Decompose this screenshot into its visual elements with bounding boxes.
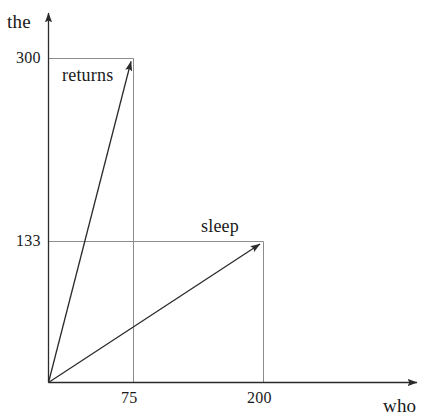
vector-label-sleep: sleep [201,217,239,235]
vector-sleep [49,244,261,383]
x-tick-label-200: 200 [247,390,272,406]
y-axis-label: the [7,12,31,31]
vector-diagram-figure: the who 300 133 75 200 returns sleep [0,0,433,420]
vector-label-returns: returns [62,66,113,84]
y-tick-label-133: 133 [16,233,41,249]
x-tick-label-75: 75 [121,390,137,406]
vector-returns [49,62,132,383]
plot-canvas [0,0,433,420]
x-axis-label: who [383,396,416,415]
y-tick-label-300: 300 [16,50,41,66]
